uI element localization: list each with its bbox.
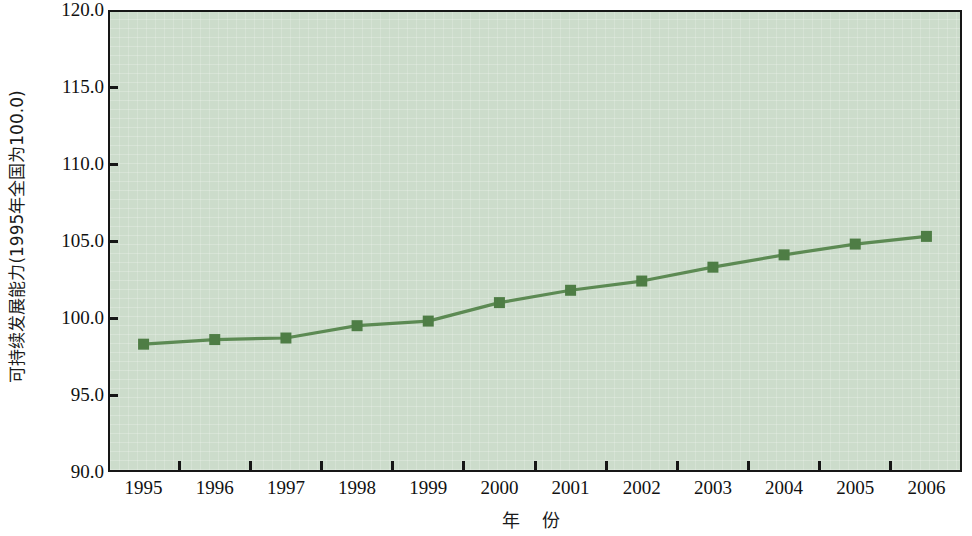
x-axis-tick-label: 1998	[322, 478, 392, 499]
x-axis-tick-label: 2002	[607, 478, 677, 499]
x-axis-tick-label: 1996	[180, 478, 250, 499]
y-axis-tick-label: 115.0	[28, 77, 104, 96]
x-axis-tick-label: 2004	[749, 478, 819, 499]
data-point-marker	[352, 320, 363, 331]
data-point-marker	[921, 231, 932, 242]
data-point-marker	[423, 316, 434, 327]
series-layer	[108, 10, 962, 472]
y-axis-tick-labels: 120.0115.0110.0105.0100.095.090.0	[20, 0, 104, 480]
y-axis-tick-label: 105.0	[28, 231, 104, 250]
x-axis-tick-label: 2005	[820, 478, 890, 499]
x-axis-tick-label: 1997	[251, 478, 321, 499]
data-point-marker	[494, 297, 505, 308]
data-point-marker	[280, 333, 291, 344]
x-axis-title: 年 份	[108, 506, 962, 532]
y-axis-tick-label: 120.0	[28, 0, 104, 19]
x-axis-tick-label: 2001	[536, 478, 606, 499]
series-markers	[138, 231, 932, 350]
series-line-sustainable-development	[144, 236, 927, 344]
x-axis-tick-label: 1999	[393, 478, 463, 499]
x-axis-tick-labels: 1995199619971998199920002001200220032004…	[108, 478, 962, 504]
data-point-marker	[850, 239, 861, 250]
y-axis-tick-label: 90.0	[28, 462, 104, 481]
data-point-marker	[209, 334, 220, 345]
x-axis-tick-label: 2003	[678, 478, 748, 499]
data-point-marker	[636, 276, 647, 287]
y-axis-tick-label: 95.0	[28, 385, 104, 404]
chart-figure: 可持续发展能力(1995年全国为100.0) 120.0115.0110.010…	[0, 0, 972, 536]
data-point-marker	[138, 339, 149, 350]
x-axis-tick-label: 2006	[891, 478, 961, 499]
data-point-marker	[565, 285, 576, 296]
data-point-marker	[779, 249, 790, 260]
y-axis-tick-label: 110.0	[28, 154, 104, 173]
x-axis-tick-label: 2000	[464, 478, 534, 499]
y-axis-tick-label: 100.0	[28, 308, 104, 327]
data-point-marker	[707, 262, 718, 273]
x-axis-tick-label: 1995	[109, 478, 179, 499]
